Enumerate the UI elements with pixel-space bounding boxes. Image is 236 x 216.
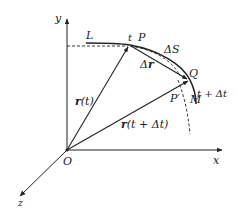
z-axis [20,150,67,196]
delta-s-label: ΔS [163,43,180,56]
r-t-dt-arg: (t + Δt) [127,118,169,131]
origin-label: O [63,155,72,168]
y-axis-label: y [54,12,62,25]
vector-r-t-label: r(t) [75,95,94,108]
point-p-prime-label: P′ [169,92,180,105]
point-p-time-label: t [128,32,133,43]
vector-r-t-dt-label: r(t + Δt) [121,118,168,131]
point-q-label: Q [189,67,198,80]
r-t-arg: (t) [81,95,94,108]
delta-r-label: Δr [139,58,155,71]
z-axis-label: z [17,198,23,208]
x-axis-label: x [213,154,220,167]
point-q-time-label: t + Δt [197,88,228,99]
point-m-label: M [189,93,202,106]
curve-label: L [85,29,93,42]
delta-r-prefix: Δ [139,58,148,71]
point-p-label: P [137,31,146,44]
displacement-diagram: y x z O L t P ΔS Δr Q t + Δt P′ M r(t) r… [0,0,236,216]
dashed-arc-m [178,80,190,134]
origin-point [65,148,68,151]
